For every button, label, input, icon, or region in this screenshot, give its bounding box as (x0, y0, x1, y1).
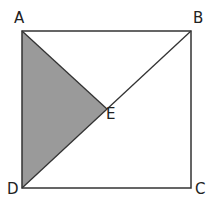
shaded-triangle-ade (22, 31, 107, 188)
label-e: E (106, 107, 115, 122)
label-a: A (14, 11, 24, 26)
label-b: B (193, 11, 203, 26)
geometry-figure (0, 0, 220, 205)
label-c: C (195, 182, 205, 197)
label-d: D (7, 182, 19, 197)
